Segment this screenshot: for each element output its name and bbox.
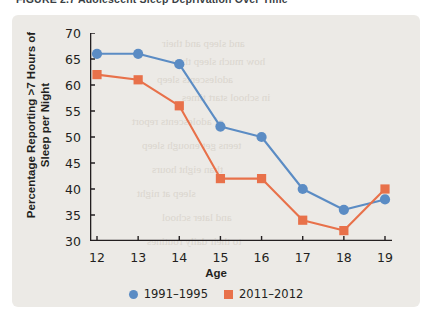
data-point-marker <box>380 194 390 204</box>
data-point-marker <box>92 70 101 79</box>
data-point-marker <box>380 184 389 193</box>
x-tick-label: 13 <box>130 250 146 265</box>
figure-caption: FIGURE 2.7 Adolescent Sleep Deprivation … <box>16 0 288 5</box>
data-point-marker <box>339 226 348 235</box>
y-axis-title-line: Sleep per Night <box>38 25 52 225</box>
data-point-marker <box>256 132 266 142</box>
data-point-marker <box>175 101 184 110</box>
y-tick-label: 70 <box>65 26 81 41</box>
legend-label: 2011–2012 <box>239 287 303 301</box>
chart-panel: and sleep and theirhow much sleep theyad… <box>12 15 420 307</box>
data-point-marker <box>134 75 143 84</box>
legend-item: 1991–1995 <box>129 287 208 301</box>
y-axis-title-line: Percentage Reporting >7 Hours of <box>24 25 38 225</box>
plot-area: 3035404550556065701213141516171819 <box>90 33 392 241</box>
y-tick-label: 65 <box>65 52 81 67</box>
data-point-marker <box>133 49 143 59</box>
data-point-marker <box>298 184 308 194</box>
y-tick-label: 50 <box>65 130 81 145</box>
data-point-marker <box>92 49 102 59</box>
data-point-marker <box>215 122 225 132</box>
legend-circle-marker-icon <box>129 290 138 299</box>
y-tick-label: 45 <box>65 156 81 171</box>
series-1 <box>92 49 390 215</box>
x-tick-label: 16 <box>254 250 270 265</box>
legend-square-marker-icon <box>224 290 233 299</box>
chart-legend: 1991–19952011–2012 <box>12 287 420 301</box>
x-axis-title: Age <box>12 267 420 279</box>
x-tick-label: 12 <box>89 250 105 265</box>
x-tick-label: 15 <box>212 250 228 265</box>
x-tick-label: 19 <box>377 250 393 265</box>
x-tick-label: 14 <box>171 250 187 265</box>
data-point-marker <box>257 174 266 183</box>
y-axis-title: Percentage Reporting >7 Hours ofSleep pe… <box>24 25 52 225</box>
data-point-marker <box>339 205 349 215</box>
y-tick-label: 40 <box>65 182 81 197</box>
data-point-marker <box>216 174 225 183</box>
y-tick-label: 55 <box>65 104 81 119</box>
x-tick-label: 17 <box>295 250 311 265</box>
y-tick-label: 60 <box>65 78 81 93</box>
legend-label: 1991–1995 <box>144 287 208 301</box>
data-point-marker <box>174 59 184 69</box>
y-tick-label: 35 <box>65 208 81 223</box>
data-point-marker <box>298 216 307 225</box>
legend-item: 2011–2012 <box>224 287 303 301</box>
chart-svg <box>90 33 392 241</box>
x-tick-label: 18 <box>336 250 352 265</box>
y-tick-label: 30 <box>65 234 81 249</box>
